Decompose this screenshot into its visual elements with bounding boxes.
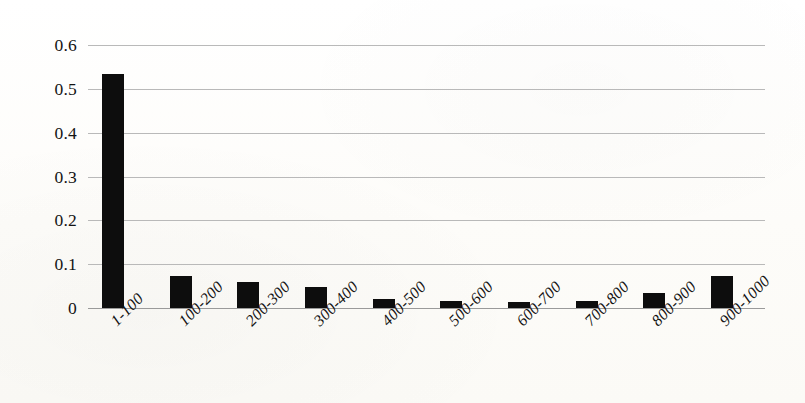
chart-figure: 0.60.50.40.30.20.10 1-100100-200200-3003…	[0, 0, 805, 403]
y-axis-tick-label: 0	[68, 298, 77, 319]
y-axis-tick-label: 0.3	[55, 166, 77, 187]
y-axis-tick-label: 0.2	[55, 210, 77, 231]
gridline: 0.1	[88, 264, 765, 265]
gridline: 0.4	[88, 133, 765, 134]
gridline: 0.6	[88, 45, 765, 46]
bar	[102, 74, 124, 308]
gridline: 0.5	[88, 89, 765, 90]
gridline: 0.3	[88, 177, 765, 178]
y-axis-tick-label: 0.4	[55, 122, 77, 143]
y-axis-tick-label: 0.6	[55, 35, 77, 56]
gridline: 0.2	[88, 220, 765, 221]
y-axis-tick-label: 0.5	[55, 78, 77, 99]
plot-area: 0.60.50.40.30.20.10 1-100100-200200-3003…	[88, 45, 765, 308]
y-axis-tick-label: 0.1	[55, 254, 77, 275]
